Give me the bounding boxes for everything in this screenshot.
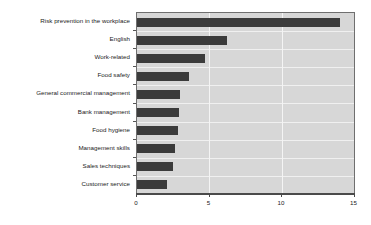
bar-english (137, 36, 227, 45)
category-label: English (110, 35, 130, 43)
category-label: Sales techniques (83, 162, 130, 170)
category-label: Customer service (82, 180, 130, 188)
category-label: Work-related (94, 53, 130, 61)
x-axis-line (136, 193, 355, 195)
bar-row (137, 122, 354, 140)
bar-bank-management (137, 108, 179, 117)
category-label: Risk prevention in the workplace (40, 17, 130, 25)
category-axis-labels: Risk prevention in the workplace English… (0, 12, 133, 193)
bar-row (137, 176, 354, 194)
plot-area (136, 12, 355, 195)
bar-row (137, 140, 354, 158)
plot-inner (137, 13, 354, 194)
bar-chart: Risk prevention in the workplace English… (0, 0, 371, 225)
category-label: Management skills (78, 144, 130, 152)
bar-sales-techniques (137, 162, 173, 171)
bar-row (137, 67, 354, 85)
bar-risk-prevention-in-the-workplace (137, 18, 340, 27)
bar-work-related (137, 54, 205, 63)
bar-food-hygiene (137, 126, 178, 135)
bar-food-safety (137, 72, 189, 81)
bar-row (137, 49, 354, 67)
x-tick-mark (281, 193, 282, 197)
bar-row (137, 103, 354, 121)
category-label: Food hygiene (92, 126, 130, 134)
category-label: Food safety (97, 71, 130, 79)
x-tick-label-10: 10 (278, 199, 285, 206)
x-tick-mark (354, 193, 355, 197)
bar-row (137, 85, 354, 103)
x-tick-label-15: 15 (350, 199, 357, 206)
bar-row (137, 13, 354, 31)
category-label: Bank management (78, 108, 130, 116)
x-tick-mark (136, 193, 137, 197)
bar-management-skills (137, 144, 175, 153)
category-label: General commercial management (36, 89, 130, 97)
x-tick-mark (209, 193, 210, 197)
x-tick-label-0: 0 (134, 199, 137, 206)
x-tick-label-5: 5 (207, 199, 210, 206)
bars-group (137, 13, 354, 194)
bar-general-commercial-management (137, 90, 180, 99)
bar-customer-service (137, 180, 167, 189)
bar-row (137, 158, 354, 176)
bar-row (137, 31, 354, 49)
